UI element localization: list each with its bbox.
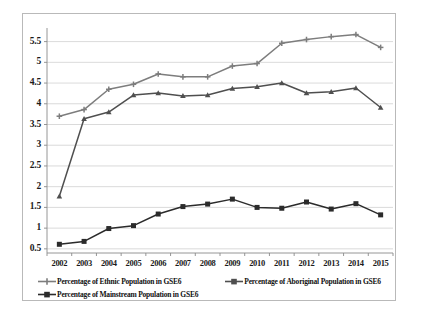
- y-tick-label: 0.5: [15, 243, 41, 253]
- y-tick-label: 3: [15, 139, 41, 149]
- data-point-marker: [304, 200, 309, 205]
- legend-row-1: Percentage of Ethnic Population in GSE6 …: [30, 275, 390, 288]
- y-tick-label: 5.5: [15, 36, 41, 46]
- data-point-marker: [255, 205, 260, 210]
- legend-marker-ethnic-icon: [38, 277, 56, 286]
- data-point-marker: [57, 242, 62, 247]
- data-point-marker: [329, 207, 334, 212]
- line-chart-plot: [0, 0, 421, 318]
- data-point-marker: [156, 212, 161, 217]
- series-1: [57, 80, 384, 198]
- y-tick-label: 5: [15, 56, 41, 66]
- data-point-marker: [57, 193, 63, 198]
- series-0: [57, 32, 384, 119]
- legend-row-2: Percentage of Mainstream Population in G…: [30, 288, 390, 301]
- legend-label-aboriginal: Percentage of Aboriginal Population in G…: [244, 277, 380, 286]
- chart-legend: Percentage of Ethnic Population in GSE6 …: [30, 275, 390, 301]
- y-tick-label: 2: [15, 181, 41, 191]
- data-point-marker: [205, 202, 210, 207]
- data-point-marker: [131, 223, 136, 228]
- data-point-marker: [279, 206, 284, 211]
- y-tick-label: 3.5: [15, 119, 41, 129]
- data-point-marker: [180, 204, 185, 209]
- y-tick-label: 2.5: [15, 160, 41, 170]
- legend-label-ethnic: Percentage of Ethnic Population in GSE6: [57, 277, 181, 286]
- data-point-marker: [378, 212, 383, 217]
- legend-item-ethnic[interactable]: Percentage of Ethnic Population in GSE6: [38, 277, 181, 286]
- data-point-marker: [82, 239, 87, 244]
- x-tick-label: 2015: [366, 258, 396, 268]
- y-tick-label: 4.5: [15, 77, 41, 87]
- legend-item-aboriginal[interactable]: Percentage of Aboriginal Population in G…: [225, 277, 380, 286]
- series-line: [59, 199, 380, 244]
- legend-marker-aboriginal-icon: [225, 277, 243, 286]
- series-line: [59, 83, 380, 196]
- legend-label-mainstream: Percentage of Mainstream Population in G…: [57, 290, 198, 299]
- data-point-marker: [230, 197, 235, 202]
- legend-item-mainstream[interactable]: Percentage of Mainstream Population in G…: [38, 290, 198, 299]
- data-point-marker: [106, 226, 111, 231]
- data-point-marker: [353, 201, 358, 206]
- y-tick-label: 4: [15, 98, 41, 108]
- y-tick-label: 1: [15, 222, 41, 232]
- series-2: [57, 197, 383, 247]
- legend-marker-mainstream-icon: [38, 290, 56, 299]
- y-tick-label: 1.5: [15, 201, 41, 211]
